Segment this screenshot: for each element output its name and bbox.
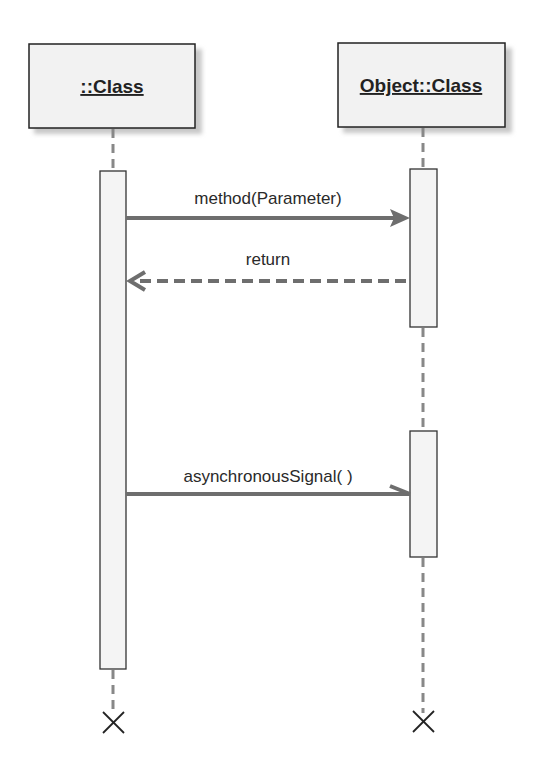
message-sync-call: method(Parameter) <box>126 189 410 227</box>
destruction-x-icon <box>103 712 124 733</box>
lifeline-left: ::Class <box>29 44 202 733</box>
message-label: asynchronousSignal( ) <box>183 467 352 486</box>
activation-bar <box>410 169 437 327</box>
lifeline-head-label: ::Class <box>80 76 143 97</box>
activation-bar <box>410 431 437 557</box>
activation-bar <box>100 171 126 669</box>
lifeline-right: Object::Class <box>338 43 512 732</box>
lifeline-head-label: Object::Class <box>360 75 482 96</box>
message-label: return <box>246 250 290 269</box>
message-async-signal: asynchronousSignal( ) <box>126 467 410 494</box>
message-label: method(Parameter) <box>194 189 341 208</box>
destruction-x-icon <box>413 711 434 732</box>
sequence-diagram: ::Class Object::Class method(Parameter) … <box>0 0 538 760</box>
message-return: return <box>130 250 410 290</box>
